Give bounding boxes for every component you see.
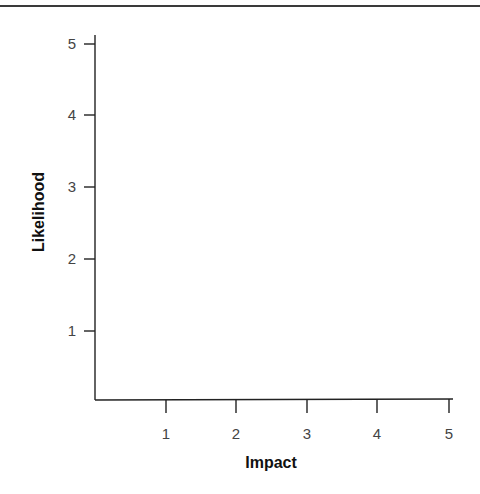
x-tick-label: 1	[162, 425, 170, 442]
x-axis-ticks	[166, 399, 449, 413]
y-axis-ticks	[84, 44, 95, 331]
y-tick-label: 1	[68, 322, 76, 339]
x-axis-title: Impact	[245, 454, 297, 471]
y-tick-label: 4	[68, 106, 76, 123]
x-tick-label: 5	[445, 425, 453, 442]
y-tick-label: 2	[68, 250, 76, 267]
x-axis-line	[95, 399, 453, 400]
y-tick-label: 5	[68, 35, 76, 52]
x-tick-label: 4	[373, 425, 381, 442]
risk-matrix-chart: 1 2 3 4 5 1 2 3 4 5 Impact Likelihood	[0, 0, 480, 494]
y-axis-tick-labels: 1 2 3 4 5	[68, 35, 76, 339]
y-axis-title: Likelihood	[30, 172, 47, 252]
y-tick-label: 3	[68, 178, 76, 195]
x-axis-tick-labels: 1 2 3 4 5	[162, 425, 453, 442]
x-tick-label: 2	[232, 425, 240, 442]
x-tick-label: 3	[303, 425, 311, 442]
